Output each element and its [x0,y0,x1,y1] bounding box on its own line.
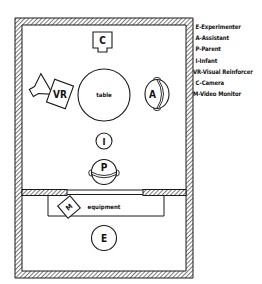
legend-item-experimenter: E-Experimenter [193,21,252,32]
legend-item-camera: C-Camera [193,77,252,88]
equipment-label: equipment [88,203,121,211]
observation-window [67,190,143,195]
reinforcer-box-icon: VR [46,79,73,108]
assistant-figure: A [145,78,169,111]
experimenter-figure: E [92,226,117,251]
legend-item-visual-reinforcer: VR-Visual Reinforcer [193,66,252,77]
table: table [78,69,130,121]
video-monitor-icon: M [58,196,81,219]
legend-item-assistant: A-Assistant [193,32,252,43]
table-label: table [96,91,112,98]
camera-icon: C [93,32,112,52]
legend-item-video-monitor: M-Video Monitor [193,88,252,99]
legend-item-parent: P-Parent [193,43,252,54]
infant-figure: I [96,133,112,149]
parent-label: P [101,162,108,173]
assistant-label: A [149,89,156,100]
experimenter-label: E [101,233,107,244]
visual-reinforcer: VR [25,74,73,109]
legend-item-infant: I-Infant [193,55,252,66]
parent-figure: P [89,160,119,185]
legend: E-Experimenter A-Assistant P-Parent I-In… [193,21,262,99]
divider-wall [22,190,186,196]
reinforcer-label: VR [53,89,67,100]
infant-label: I [102,137,105,147]
camera-label: C [99,35,106,46]
